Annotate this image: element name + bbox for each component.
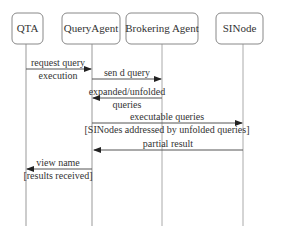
message-send-query: sen d query <box>92 67 161 79</box>
participant-query-agent-label: QueryAgent <box>64 22 118 34</box>
participant-brokering-agent: Brokering Agent <box>125 13 199 44</box>
participant-sinode: SINode <box>216 13 263 44</box>
participant-sinode-label: SINode <box>223 22 257 34</box>
message-view-name: view name [results received] <box>23 157 92 181</box>
message-expanded-unfolded-queries: expanded/unfolded queries <box>89 86 166 110</box>
svg-text:view name: view name <box>36 157 80 168</box>
svg-text:sen d query: sen d query <box>104 67 150 78</box>
participant-qta: QTA <box>12 13 43 44</box>
participant-brokering-agent-label: Brokering Agent <box>125 22 199 34</box>
svg-text:execution: execution <box>39 70 78 81</box>
message-partial-result: partial result <box>94 138 243 150</box>
participant-query-agent: QueryAgent <box>62 13 120 44</box>
message-request-query-execution: request query execution <box>26 57 91 81</box>
svg-text:queries: queries <box>113 99 142 110</box>
svg-text:[results received]: [results received] <box>23 170 92 181</box>
svg-text:[SINodes addressed by unfolded: [SINodes addressed by unfolded queries] <box>85 124 250 135</box>
svg-text:partial result: partial result <box>143 138 193 149</box>
message-executable-queries: executable queries [SINodes addressed by… <box>85 111 250 135</box>
participant-qta-label: QTA <box>17 22 39 34</box>
sequence-diagram: QTA QueryAgent Brokering Agent SINode re… <box>0 0 284 239</box>
svg-text:request query: request query <box>31 57 85 68</box>
svg-text:executable queries: executable queries <box>130 111 204 122</box>
svg-text:expanded/unfolded: expanded/unfolded <box>89 86 166 97</box>
